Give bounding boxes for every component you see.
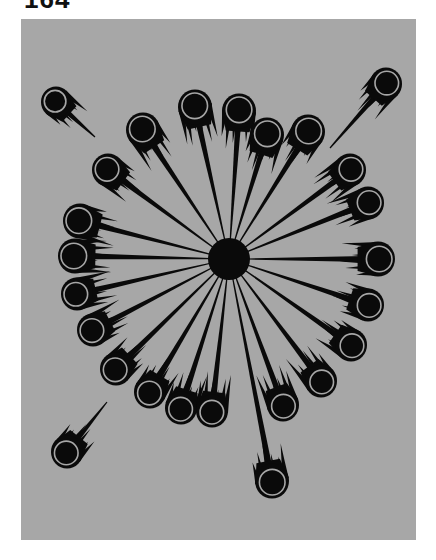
center-dot-icon	[208, 238, 250, 280]
comet	[332, 282, 384, 322]
comet	[51, 424, 94, 468]
comet	[327, 187, 384, 227]
comet-tail-line	[232, 278, 275, 482]
comet	[256, 365, 299, 421]
comet	[253, 443, 289, 498]
comet	[92, 154, 141, 202]
comet	[281, 114, 325, 164]
comet	[178, 89, 218, 145]
comet-burst-illustration	[0, 0, 436, 560]
comet	[61, 271, 117, 310]
